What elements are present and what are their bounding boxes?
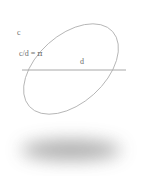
- ratio-formula-label: c/d = π: [19, 50, 43, 58]
- circle-pi-diagram: c c/d = π d: [0, 0, 143, 176]
- ratio-formula-text: c/d =: [19, 49, 37, 58]
- circumference-label: c: [17, 29, 21, 37]
- diagram-canvas: [0, 0, 143, 176]
- diameter-label: d: [80, 58, 84, 66]
- drop-shadow-ellipse: [21, 140, 121, 160]
- circle-in-perspective: [7, 6, 136, 131]
- pi-symbol: π: [37, 49, 42, 58]
